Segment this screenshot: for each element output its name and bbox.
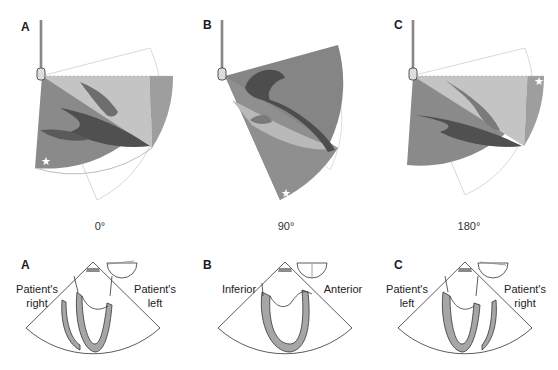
probe-tip: [218, 68, 226, 80]
bottom-a-right-label: Patient's left: [130, 282, 180, 310]
diagram-canvas: ★ ★ ★: [0, 0, 558, 370]
star-icon: ★: [281, 187, 291, 199]
bottom-panel-a-letter: A: [21, 258, 30, 272]
star-icon: ★: [534, 75, 544, 87]
bottom-b-left-label: Inferior: [214, 282, 264, 296]
probe-tip: [409, 68, 417, 80]
top-panel-b-letter: B: [203, 18, 212, 32]
top-panel-a-letter: A: [21, 20, 30, 34]
probe-tip: [37, 68, 45, 80]
bottom-panel-b-letter: B: [203, 258, 212, 272]
orientation-icon: [478, 263, 508, 278]
top-panel-c-letter: C: [394, 18, 403, 32]
star-icon: ★: [41, 155, 51, 167]
bottom-panel-b-graphic: [218, 262, 352, 354]
bottom-c-right-label: Patient's right: [500, 282, 550, 310]
bottom-a-left-label: Patient's right: [12, 282, 62, 310]
top-panel-a-graphic: ★: [35, 20, 173, 200]
echo-sector: [218, 262, 352, 354]
bottom-panel-c-letter: C: [394, 258, 403, 272]
angle-label-c: 180°: [439, 220, 499, 232]
orientation-icon: [107, 263, 137, 278]
angle-label-a: 0°: [70, 220, 130, 232]
top-panel-b-graphic: ★: [218, 20, 343, 200]
angle-label-b: 90°: [256, 220, 316, 232]
bottom-c-left-label: Patient's left: [382, 282, 432, 310]
top-panel-c-graphic: ★: [407, 20, 544, 195]
bottom-b-right-label: Anterior: [318, 282, 368, 296]
